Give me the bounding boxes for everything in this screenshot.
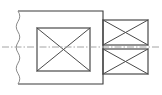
upper-flange-section-group xyxy=(103,20,148,45)
technical-drawing-canvas xyxy=(0,0,162,95)
lower-flange-section-group xyxy=(103,49,148,74)
inner-bore-section-group xyxy=(37,28,90,71)
drawing-svg-root xyxy=(0,0,162,95)
wavy-break-line xyxy=(16,11,20,84)
break-line-group xyxy=(16,11,20,84)
